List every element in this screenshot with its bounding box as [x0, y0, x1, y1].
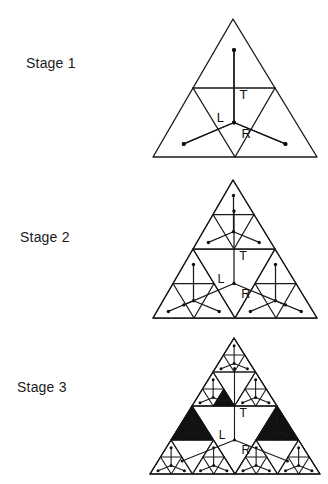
svg-text:L: L [217, 110, 224, 125]
svg-text:T: T [239, 249, 247, 263]
stage-2-canvas: TLR [145, 170, 325, 326]
svg-text:L: L [217, 272, 224, 286]
stage-3-drawing: TLR [142, 330, 328, 482]
svg-text:R: R [241, 287, 250, 301]
stage-3-label: Stage 3 [17, 379, 67, 395]
svg-text:R: R [241, 443, 250, 457]
figure-root: Stage 1 TLR Stage 2 TLR Stage 3 TLR [0, 0, 328, 484]
stage-3-canvas: TLR [142, 330, 328, 482]
stage-1-label: Stage 1 [26, 55, 76, 71]
stage-1-canvas: TLR [145, 8, 325, 170]
svg-text:R: R [241, 126, 250, 141]
stage-1-drawing: TLR [145, 8, 325, 170]
svg-text:T: T [239, 406, 247, 420]
svg-text:T: T [239, 87, 247, 102]
stage-2-drawing: TLR [145, 170, 325, 326]
svg-text:L: L [219, 428, 226, 442]
stage-2-label: Stage 2 [20, 229, 70, 245]
